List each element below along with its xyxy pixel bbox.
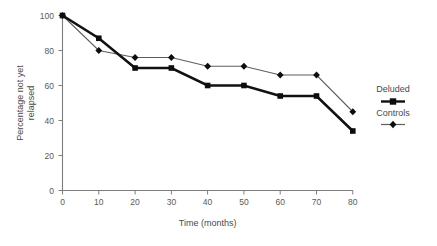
- y-axis-title: Percentage not yet relapsed: [15, 65, 36, 141]
- data-point: [314, 93, 320, 99]
- x-tick-label: 0: [60, 197, 65, 207]
- legend-swatch-deluded: [381, 98, 405, 104]
- x-tick-label: 50: [239, 197, 249, 207]
- x-tick-label: 30: [167, 197, 177, 207]
- x-axis-tick-labels: 0 10 20 30 40 50 60 70 80: [60, 197, 358, 207]
- y-axis-tick-labels: 0 20 40 60 80 100: [40, 11, 54, 196]
- legend-swatch-controls: [381, 121, 405, 128]
- y-tick-label: 80: [45, 46, 55, 56]
- y-tick-marks: [59, 16, 63, 191]
- y-tick-label: 100: [40, 11, 54, 21]
- data-point: [277, 93, 283, 99]
- data-point: [132, 54, 139, 61]
- x-tick-label: 20: [130, 197, 140, 207]
- y-tick-label: 40: [45, 116, 55, 126]
- data-point: [204, 63, 211, 70]
- line-chart-canvas: 0 20 40 60 80 100 0 10 20 30 40 50 60 70…: [0, 0, 437, 246]
- y-axis-title-line1: Percentage not yet: [15, 65, 25, 141]
- data-point: [205, 83, 211, 89]
- data-point: [169, 65, 175, 71]
- data-point: [96, 35, 102, 41]
- x-tick-label: 80: [348, 197, 358, 207]
- series-deluded: [60, 13, 356, 134]
- series-controls: [59, 12, 356, 115]
- data-point: [241, 63, 248, 70]
- x-tick-label: 10: [94, 197, 104, 207]
- y-tick-label: 0: [49, 186, 54, 196]
- x-tick-marks: [63, 191, 353, 195]
- x-tick-label: 40: [203, 197, 213, 207]
- y-axis-title-line2: relapsed: [26, 86, 36, 121]
- x-axis-title: Time (months): [179, 218, 237, 228]
- data-point: [277, 72, 284, 79]
- series-deluded-markers: [60, 13, 356, 134]
- legend-label-controls: Controls: [376, 108, 410, 118]
- data-point: [241, 83, 247, 89]
- x-tick-label: 60: [275, 197, 285, 207]
- chart-legend: Deluded Controls: [376, 84, 410, 128]
- data-point: [168, 54, 175, 61]
- x-tick-label: 70: [312, 197, 322, 207]
- data-point: [350, 128, 356, 134]
- y-tick-label: 60: [45, 81, 55, 91]
- legend-label-deluded: Deluded: [376, 84, 410, 94]
- y-tick-label: 20: [45, 151, 55, 161]
- data-point: [60, 13, 66, 19]
- chart-figure: 0 20 40 60 80 100 0 10 20 30 40 50 60 70…: [0, 0, 437, 246]
- series-controls-markers: [59, 12, 356, 115]
- axis-lines: [63, 14, 354, 191]
- data-point: [132, 65, 138, 71]
